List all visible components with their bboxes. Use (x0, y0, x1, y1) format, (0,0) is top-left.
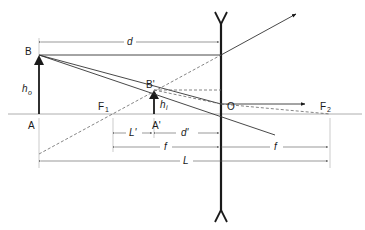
label-L-prime: L' (129, 127, 138, 138)
label-B: B (25, 46, 32, 57)
label-f-right: f (274, 141, 278, 152)
label-A-prime: A' (152, 120, 161, 131)
svg-text:i: i (166, 104, 168, 111)
light-rays (39, 14, 305, 135)
svg-text:2: 2 (327, 106, 331, 113)
label-B-prime: B' (146, 79, 155, 90)
label-image-height: h i (160, 99, 168, 111)
label-d-prime: d' (181, 127, 190, 138)
optics-diagram: B A B' A' O F 1 F 2 h o h i d L' d' f f … (0, 0, 365, 230)
svg-text:F: F (98, 101, 104, 112)
label-O: O (227, 101, 235, 112)
label-f-left: f (164, 141, 168, 152)
dimension-lines (41, 42, 328, 161)
svg-text:1: 1 (105, 106, 109, 113)
object-arrow (34, 55, 44, 114)
label-object-height: h o (22, 83, 32, 96)
extension-lines (39, 38, 330, 168)
label-L: L (183, 155, 189, 166)
label-A: A (28, 120, 35, 131)
label-F2: F 2 (320, 101, 331, 113)
svg-text:F: F (320, 101, 326, 112)
label-F1: F 1 (98, 101, 109, 113)
svg-text:o: o (28, 89, 32, 96)
label-d: d (127, 36, 133, 47)
